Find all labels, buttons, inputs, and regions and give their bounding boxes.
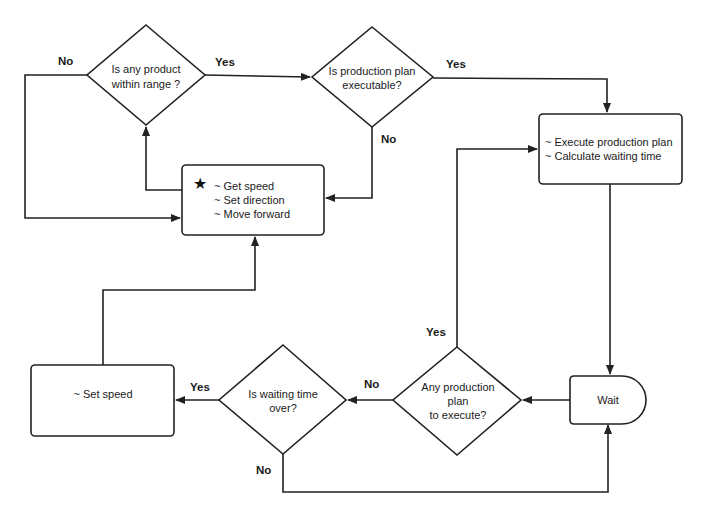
node-label: over?	[269, 402, 297, 414]
decision-plan-executable: Is production plan executable?	[312, 27, 433, 127]
flowchart: Is any product within range ? Is product…	[0, 0, 702, 523]
edge-range-yes	[205, 75, 310, 77]
node-label: ~ Set speed	[73, 388, 132, 400]
edge-label-wait-no: No	[256, 464, 271, 476]
node-label: ~ Move forward	[214, 208, 290, 220]
edge-any-yes	[457, 149, 537, 347]
edge-label-wait-yes: Yes	[190, 381, 210, 393]
process-move: ★ ~ Get speed ~ Set direction ~ Move for…	[182, 165, 324, 235]
edge-label-exec-no: No	[381, 133, 396, 145]
node-label: Is any product	[111, 63, 180, 75]
decision-waiting-over: Is waiting time over?	[219, 345, 346, 454]
node-label: within range ?	[111, 78, 181, 90]
decision-product-in-range: Is any product within range ?	[87, 25, 205, 125]
node-label: Wait	[597, 394, 619, 406]
decision-any-plan: Any production plan to execute?	[393, 347, 521, 455]
node-label: ~ Get speed	[214, 180, 274, 192]
node-label: Is waiting time	[248, 388, 318, 400]
delay-wait: Wait	[570, 376, 646, 424]
edge-label-exec-yes: Yes	[446, 58, 466, 70]
edge-exec-yes	[433, 78, 607, 112]
edge-label-any-yes: Yes	[426, 326, 446, 338]
node-label: ~ Calculate waiting time	[545, 150, 661, 162]
node-label: Is production plan	[329, 65, 416, 77]
edge-label-any-no: No	[364, 378, 379, 390]
process-set-speed: ~ Set speed	[31, 365, 174, 436]
node-label: plan	[448, 395, 469, 407]
node-label: Any production	[421, 381, 494, 393]
node-label: ~ Set direction	[214, 194, 285, 206]
node-label: executable?	[342, 79, 401, 91]
edge-setspeed-to-move	[103, 237, 255, 365]
process-execute: ~ Execute production plan ~ Calculate wa…	[539, 114, 682, 184]
star-icon: ★	[193, 175, 207, 192]
edge-label-range-no: No	[58, 55, 73, 67]
edge-label-range-yes: Yes	[215, 56, 235, 68]
node-label: to execute?	[430, 409, 487, 421]
edge-exec-no	[326, 127, 372, 198]
node-label: ~ Execute production plan	[545, 136, 673, 148]
